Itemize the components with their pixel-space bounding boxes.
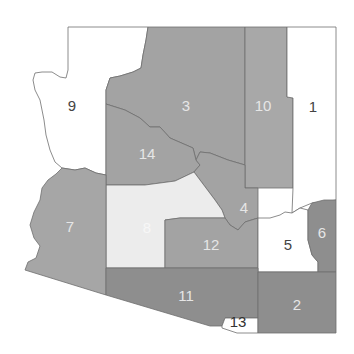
region-label-14: 14	[139, 145, 156, 162]
region-label-11: 11	[178, 287, 194, 304]
region-label-13: 13	[230, 313, 247, 330]
arizona-region-map: 1234567891011121314	[0, 0, 354, 354]
region-label-3: 3	[182, 97, 190, 114]
region-label-12: 12	[203, 236, 220, 253]
region-label-8: 8	[143, 219, 151, 236]
region-label-7: 7	[66, 218, 74, 235]
region-1[interactable]	[287, 27, 336, 213]
map-canvas: 1234567891011121314	[0, 0, 354, 354]
region-label-2: 2	[293, 296, 301, 313]
region-label-6: 6	[318, 224, 326, 241]
region-label-9: 9	[68, 97, 76, 114]
region-label-4: 4	[240, 199, 248, 216]
region-label-10: 10	[255, 97, 272, 114]
region-label-5: 5	[284, 236, 292, 253]
region-label-1: 1	[309, 98, 317, 115]
